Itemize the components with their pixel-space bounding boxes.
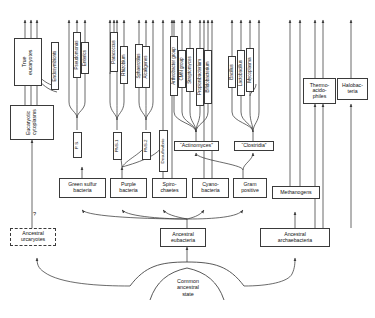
chip-desulfovibrio: Desulfovibrio [159,130,168,172]
label-clostridia: “Clostridia” [241,143,266,149]
label-eucaryotic-cytoplasms: Eucaryotic cytoplasms [26,110,37,136]
box-ancestral-eubacteria: Ancestral eubacteria [160,228,206,247]
chip-paracoccus: Paracoccus [110,32,118,72]
label-cyanobacteria: Cyano- bacteria [201,182,219,193]
label-pseudomonas: Pseudomonas [75,41,80,70]
chip-cmn-group: CMN group [178,50,186,88]
label-endosymbionts: Endosymbionts [53,51,58,82]
chip-pseudomonas: Pseudomonas [73,32,81,78]
label-thermoacidophiles: Thermo- acido- philes [310,83,330,100]
label-paracoccus: Paracoccus [112,40,117,64]
label-actinomyces: “Actinomyces” [180,143,213,149]
box-ancestral-archaebacteria: Ancestral archaebacteria [260,228,330,247]
question-mark-annotation: ? [33,211,36,217]
label-green-sulfur-bacteria: Green sulfur bacteria [68,182,97,193]
chip-bacillus: Bacillus [228,56,236,88]
chip-mycoplasma: Mycoplasma [246,48,254,92]
label-bacillus: Bacillus [230,64,235,79]
box-thermoacidophiles: Thermo- acido- philes [303,78,336,104]
chip-propionibacterium: Propionibacterium [196,48,204,106]
label-rhizobium: Rhizobium [122,54,127,75]
chip-actinomyces: “Actinomyces” [174,141,219,151]
label-purple-bacteria: Purple bacteria [119,182,137,193]
box-ancestral-urcaryotes: Ancestral urcaryotes [10,228,56,246]
label-cmn-group: CMN group [180,57,185,80]
box-cyanobacteria: Cyano- bacteria [192,178,229,198]
chip-streptomyces: Streptomyces [186,48,194,92]
label-pns-1: PNS-1 [115,140,119,153]
box-purple-bacteria: Purple bacteria [110,178,147,198]
label-pns-2: PNS-2 [144,140,148,153]
label-sphaerotilus: Sphaerotilus [137,54,142,79]
label-ps: P. S. [75,141,79,150]
label-arthrobacter-group: Arthrobacter group [172,47,177,84]
label-ancestral-archaebacteria: Ancestral archaebacteria [278,232,312,243]
chip-bifidobacterium: Bifidobacterium [204,50,212,104]
phylogenetic-tree-figure: Eucaryotic cytoplasms True eucaryotes En… [0,0,375,318]
box-gram-positive: Gram positive [233,178,267,198]
chip-enterics: Enterics [81,42,89,74]
chip-ps: P. S. [73,132,82,158]
box-eucaryotic-cytoplasms: Eucaryotic cytoplasms [10,105,54,140]
label-enterics: Enterics [83,50,88,66]
box-halobacteria: Halobac- teria [337,78,368,100]
chip-clostridia: “Clostridia” [234,141,274,151]
chip-alcaligenes: Alcaligenes [142,46,150,88]
label-alcaligenes: Alcaligenes [144,56,149,79]
root-common-ancestral-state: Common ancestral state [165,272,211,297]
label-spirochaetes: Spiro- chaetes [160,182,178,193]
label-ancestral-urcaryotes: Ancestral urcaryotes [21,231,45,242]
box-methanogens: Methanogens [272,186,320,199]
label-mycoplasma: Mycoplasma [248,57,253,82]
label-true-eucaryotes: True eucaryotes [22,49,33,74]
box-green-sulfur-bacteria: Green sulfur bacteria [59,178,106,198]
label-propionibacterium: Propionibacterium [198,59,203,95]
label-gram-positive: Gram positive [241,182,259,193]
box-true-eucaryotes: True eucaryotes [14,38,42,86]
label-desulfovibrio: Desulfovibrio [161,139,165,164]
chip-rhizobium: Rhizobium [120,46,128,84]
label-lactobacillus: Lactobacillus [239,60,244,86]
label-methanogens: Methanogens [280,190,311,196]
chip-pns-2: PNS-2 [142,132,151,160]
box-endosymbionts: Endosymbionts [51,42,59,90]
chip-arthrobacter-group: Arthrobacter group [170,36,178,96]
label-streptomyces: Streptomyces [188,56,193,83]
label-ancestral-eubacteria: Ancestral eubacteria [171,232,195,243]
label-bifidobacterium: Bifidobacterium [206,62,211,93]
chip-pns-1: PNS-1 [113,132,122,160]
label-common-ancestral-state: Common ancestral state [177,278,199,296]
chip-lactobacillus: Lactobacillus [237,50,245,96]
box-spirochaetes: Spiro- chaetes [152,178,187,198]
label-halobacteria: Halobac- teria [342,83,363,94]
